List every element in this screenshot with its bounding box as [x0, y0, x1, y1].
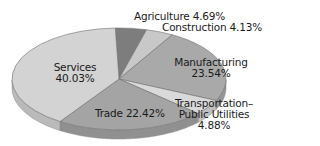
label-services: Services 40.03% — [50, 62, 100, 84]
label-manufacturing-value: 23.54% — [168, 68, 254, 79]
label-services-value: 40.03% — [50, 73, 100, 84]
label-construction: Construction 4.13% — [162, 22, 262, 33]
label-manufacturing: Manufacturing 23.54% — [168, 57, 254, 79]
label-transportation: Transportation– Public Utilities 4.88% — [172, 98, 256, 131]
label-trade: Trade 22.42% — [95, 108, 165, 119]
label-transportation-value: 4.88% — [172, 120, 256, 131]
